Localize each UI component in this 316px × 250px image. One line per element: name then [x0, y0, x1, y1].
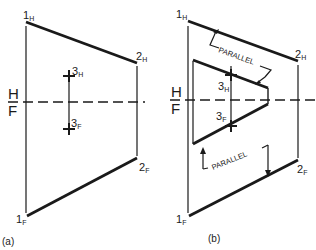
fold-label-h: H [171, 83, 182, 100]
label-1f: 1F [176, 213, 186, 226]
parallel-label-bottom: PARALLEL [210, 150, 248, 172]
label-2f: 2F [139, 161, 149, 174]
label-3h: 3H [218, 80, 229, 93]
label-3f: 3F [71, 117, 81, 130]
parallel-label-top: PARALLEL [217, 45, 255, 66]
caption-a: (a) [2, 236, 14, 247]
fold-label-h: H [8, 85, 19, 102]
panel-b: PARALLEL PARALLEL 1H 2H 3H 3F 2F 1F H F … [170, 8, 316, 244]
parallel-bracket-bottom: PARALLEL [200, 145, 271, 177]
line-1f-2f [27, 158, 137, 216]
label-3f: 3F [216, 110, 226, 123]
label-3h: 3H [72, 65, 83, 78]
label-1f: 1F [16, 213, 26, 226]
descriptive-geometry-figure: 1H 2H 3H 3F 2F 1F H F (a) [0, 0, 316, 250]
label-1h: 1H [176, 8, 187, 21]
panel-a: 1H 2H 3H 3F 2F 1F H F (a) [2, 9, 149, 247]
caption-b: (b) [208, 233, 220, 244]
fold-label-f: F [171, 100, 180, 117]
fold-label-f: F [8, 102, 17, 119]
line-1h-2h [26, 22, 137, 63]
label-2f: 2F [297, 163, 307, 176]
label-2h: 2H [136, 50, 147, 63]
label-2h: 2H [295, 48, 306, 61]
label-1h: 1H [23, 9, 34, 22]
